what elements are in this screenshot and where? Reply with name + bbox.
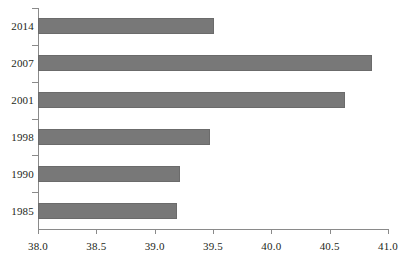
- bar-row: [38, 89, 388, 111]
- y-axis-tick-mark: [32, 192, 38, 193]
- y-axis-tick-label: 2001: [0, 95, 34, 106]
- bar-row: [38, 52, 388, 74]
- x-axis-tick-mark: [38, 229, 39, 234]
- bar: [38, 129, 210, 145]
- x-axis-tick-label: 40.0: [249, 240, 293, 252]
- bar: [38, 18, 214, 34]
- bar: [38, 55, 372, 71]
- x-axis-tick-mark: [330, 229, 331, 234]
- y-axis-tick-mark: [32, 45, 38, 46]
- bar: [38, 166, 180, 182]
- x-axis-tick-mark: [271, 229, 272, 234]
- y-axis-tick-mark: [32, 119, 38, 120]
- bar-row: [38, 15, 388, 37]
- bar-chart: 201420072001199819901985 38.038.539.039.…: [0, 0, 408, 273]
- bar-row: [38, 126, 388, 148]
- y-axis-tick-label: 1985: [0, 206, 34, 217]
- x-axis-tick-label: 39.0: [133, 240, 177, 252]
- x-axis-tick-label: 40.5: [308, 240, 352, 252]
- x-axis-tick-mark: [96, 229, 97, 234]
- bar-row: [38, 163, 388, 185]
- x-axis-tick-mark: [213, 229, 214, 234]
- y-axis-tick-label: 2014: [0, 21, 34, 32]
- y-axis-tick-mark: [32, 8, 38, 9]
- x-axis-tick-mark: [155, 229, 156, 234]
- x-axis-tick-label: 39.5: [191, 240, 235, 252]
- x-axis-tick-label: 38.0: [16, 240, 60, 252]
- y-axis-tick-mark: [32, 155, 38, 156]
- y-axis-tick-label: 1998: [0, 132, 34, 143]
- bar: [38, 203, 177, 219]
- y-axis-tick-label: 2007: [0, 58, 34, 69]
- bar: [38, 92, 345, 108]
- x-axis-tick-label: 38.5: [74, 240, 118, 252]
- y-axis-tick-label: 1990: [0, 169, 34, 180]
- x-axis-tick-label: 41.0: [366, 240, 408, 252]
- x-axis-tick-mark: [388, 229, 389, 234]
- plot-area: [38, 8, 388, 229]
- y-axis-tick-mark: [32, 82, 38, 83]
- bar-row: [38, 200, 388, 222]
